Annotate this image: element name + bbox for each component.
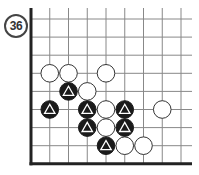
white-stone [153,101,171,119]
black-stone-marked [41,101,59,119]
white-stone [97,65,115,83]
black-stone-marked [97,137,115,155]
white-stone [41,65,59,83]
white-stone [78,83,96,101]
black-stone-marked [116,101,134,119]
white-stone [97,101,115,119]
black-stone-marked [60,83,78,101]
white-stone [116,137,134,155]
white-stone [60,65,78,83]
white-stone [135,137,153,155]
black-stone-marked [116,119,134,137]
go-board [0,0,199,175]
black-stone-marked [78,101,96,119]
white-stone [97,119,115,137]
black-stone-marked [78,119,96,137]
